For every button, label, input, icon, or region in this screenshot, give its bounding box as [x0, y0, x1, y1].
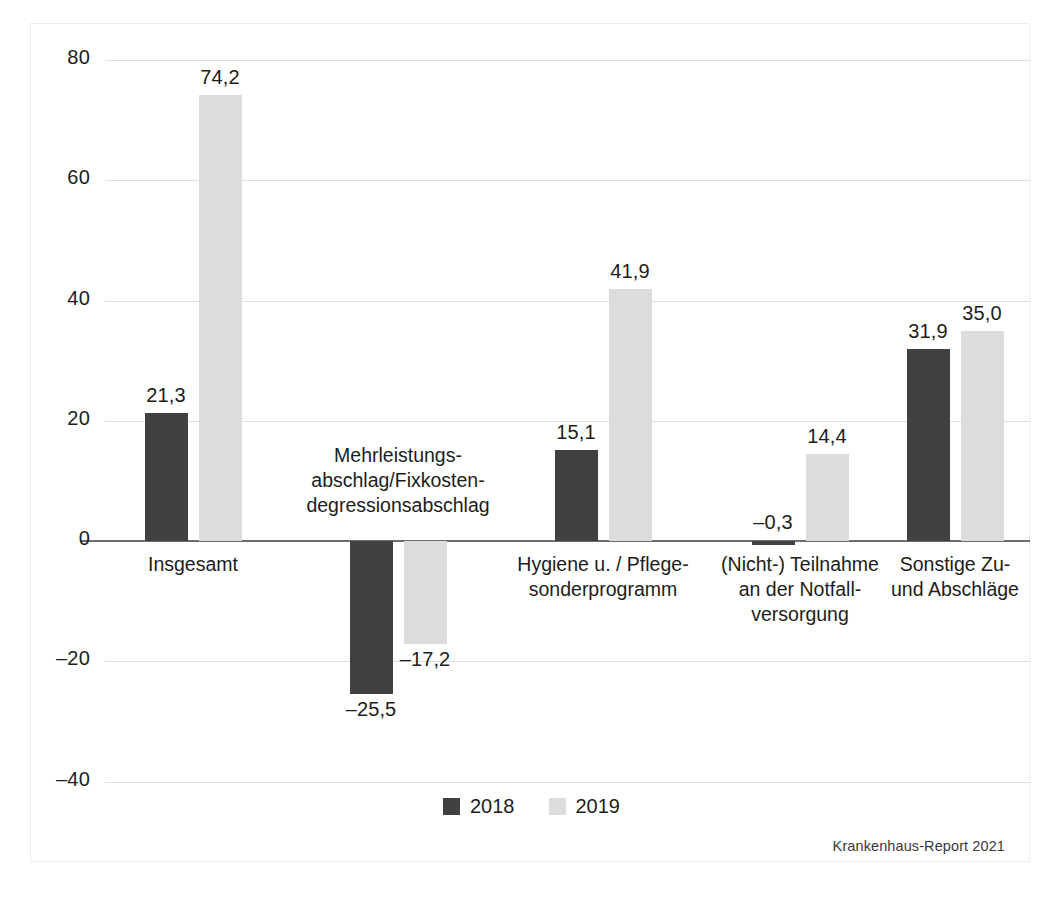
- gridline-80: [105, 60, 1030, 61]
- source-caption: Krankenhaus-Report 2021: [833, 838, 1005, 854]
- chart-page: 806040200–20–4021,374,2Insgesamt–25,5–17…: [0, 0, 1063, 898]
- y-axis-tick-label: –40: [28, 768, 90, 791]
- bar-2018-group-3: [752, 541, 795, 545]
- y-axis-tick-label: –20: [28, 647, 90, 670]
- bar-chart-plot-area: 806040200–20–4021,374,2Insgesamt–25,5–17…: [0, 0, 1063, 898]
- bar-2019-group-0: [199, 95, 242, 541]
- legend-label-2019: 2019: [576, 795, 621, 818]
- bar-2019-group-2: [609, 289, 652, 541]
- bar-2019-group-3: [806, 454, 849, 541]
- bar-2019-group-4: [961, 331, 1004, 541]
- gridline--20: [105, 661, 1030, 662]
- value-label-2019-group-2: 41,9: [589, 260, 672, 283]
- y-axis-tick-label: 80: [28, 46, 90, 69]
- legend-item-2018: 2018: [443, 795, 515, 818]
- y-axis-tick-label: 60: [28, 166, 90, 189]
- value-label-2018-group-2: 15,1: [535, 421, 618, 444]
- x-axis-category-label: Sonstige Zu- und Abschläge: [840, 552, 1063, 602]
- value-label-2018-group-0: 21,3: [125, 384, 208, 407]
- legend-label-2018: 2018: [470, 795, 515, 818]
- gridline--40: [105, 782, 1030, 783]
- bar-2018-group-2: [555, 450, 598, 541]
- chart-legend: 2018 2019: [0, 795, 1063, 818]
- value-label-2019-group-0: 74,2: [179, 66, 262, 89]
- value-label-2018-group-3: –0,3: [732, 511, 815, 534]
- x-axis-category-label: Mehrleistungs- abschlag/Fixkosten- degre…: [248, 443, 548, 518]
- bar-2018-group-4: [907, 349, 950, 541]
- x-axis-category-label: Insgesamt: [78, 552, 308, 577]
- gridline-40: [105, 301, 1030, 302]
- bar-2019-group-1: [404, 541, 447, 644]
- y-axis-tick-label: 40: [28, 287, 90, 310]
- value-label-2019-group-1: –17,2: [384, 648, 467, 671]
- y-axis-tick-label: 20: [28, 407, 90, 430]
- y-axis-tick-label: 0: [28, 527, 90, 550]
- bar-2018-group-0: [145, 413, 188, 541]
- value-label-2019-group-3: 14,4: [786, 425, 869, 448]
- legend-swatch-2018: [443, 798, 460, 815]
- gridline-60: [105, 180, 1030, 181]
- value-label-2018-group-1: –25,5: [330, 698, 413, 721]
- value-label-2019-group-4: 35,0: [941, 302, 1024, 325]
- legend-swatch-2019: [549, 798, 566, 815]
- legend-item-2019: 2019: [549, 795, 621, 818]
